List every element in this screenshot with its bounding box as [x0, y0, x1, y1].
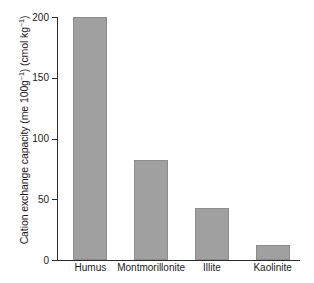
- y-axis-tick-label: 200: [32, 13, 49, 23]
- y-axis-tick: 50: [52, 199, 57, 200]
- y-axis-tick: 0: [52, 260, 57, 261]
- y-axis-tick-label: 100: [32, 134, 49, 144]
- y-axis-tick: 100: [52, 139, 57, 140]
- y-axis-line: [57, 17, 58, 260]
- y-axis-tick: 150: [52, 78, 57, 79]
- x-axis-category-label: Montmorillonite: [117, 263, 185, 273]
- bar-chart-figure: Cation exchange capacity (me 100g−1) (cm…: [0, 0, 314, 283]
- x-axis-category-label: Humus: [75, 263, 107, 273]
- x-axis-category-label: Kaolinite: [253, 263, 291, 273]
- bar: [134, 160, 168, 260]
- y-axis-title-mid: ) (cmol kg: [18, 27, 30, 72]
- y-axis-tick: 200: [52, 17, 57, 18]
- y-axis-title-text: Cation exchange capacity (me 100g−1) (cm…: [19, 16, 30, 245]
- y-axis-tick-label: 50: [38, 195, 49, 205]
- y-axis-title-superscript-1: −1: [16, 72, 25, 80]
- bar: [195, 208, 229, 260]
- x-axis-line: [57, 260, 300, 261]
- y-axis-title: Cation exchange capacity (me 100g−1) (cm…: [16, 0, 32, 260]
- y-axis-tick-label: 150: [32, 73, 49, 83]
- y-axis-title-lead: Cation exchange capacity (me 100g: [18, 80, 30, 244]
- y-axis-title-superscript-2: −1: [16, 19, 25, 27]
- y-axis-title-tail: ): [18, 16, 30, 19]
- plot-area: 050100150200 HumusMontmorilloniteIlliteK…: [57, 14, 300, 260]
- bar: [256, 245, 290, 260]
- x-axis-category-label: Illite: [203, 263, 221, 273]
- bar: [73, 17, 107, 260]
- y-axis-tick-label: 0: [43, 256, 49, 266]
